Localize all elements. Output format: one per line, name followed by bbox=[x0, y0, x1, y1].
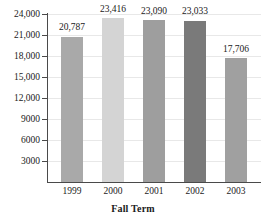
x-tick-label-2002: 2002 bbox=[175, 186, 215, 196]
y-tick-label-21000: 21,000 bbox=[14, 31, 40, 41]
y-tick-label-6000: 6000 bbox=[21, 136, 40, 146]
y-tick-6000 bbox=[42, 140, 47, 141]
bar-value-label-1999: 20,787 bbox=[45, 23, 99, 33]
bar-value-label-2002: 23,033 bbox=[168, 7, 222, 17]
y-tick-9000 bbox=[42, 119, 47, 120]
bar-2002 bbox=[184, 21, 206, 182]
y-tick-3000 bbox=[42, 161, 47, 162]
y-tick-label-18000: 18,000 bbox=[14, 52, 40, 62]
x-tick-label-2000: 2000 bbox=[93, 186, 133, 196]
x-axis-title: Fall Term bbox=[0, 203, 266, 214]
bar-2001 bbox=[143, 20, 165, 182]
bar-1999 bbox=[61, 37, 83, 183]
y-tick-label-24000: 24,000 bbox=[14, 10, 40, 20]
x-tick-label-1999: 1999 bbox=[52, 186, 92, 196]
x-tick-label-2001: 2001 bbox=[134, 186, 174, 196]
y-tick-15000 bbox=[42, 77, 47, 78]
bar-chart: 24,000 21,000 18,000 15,000 12,000 9000 … bbox=[0, 0, 266, 222]
bar-value-label-2003: 17,706 bbox=[209, 45, 263, 55]
y-tick-label-12000: 12,000 bbox=[14, 94, 40, 104]
bar-2003 bbox=[225, 58, 247, 182]
bar-2000 bbox=[102, 18, 124, 182]
y-tick-18000 bbox=[42, 56, 47, 57]
x-tick-label-2003: 2003 bbox=[216, 186, 256, 196]
x-axis-line bbox=[47, 182, 261, 183]
y-tick-24000 bbox=[42, 14, 47, 15]
y-tick-label-15000: 15,000 bbox=[14, 73, 40, 83]
y-tick-label-3000: 3000 bbox=[21, 157, 40, 167]
y-tick-label-9000: 9000 bbox=[21, 115, 40, 125]
y-tick-12000 bbox=[42, 98, 47, 99]
plot-area bbox=[47, 14, 261, 182]
y-axis-line bbox=[47, 13, 48, 183]
y-tick-21000 bbox=[42, 35, 47, 36]
